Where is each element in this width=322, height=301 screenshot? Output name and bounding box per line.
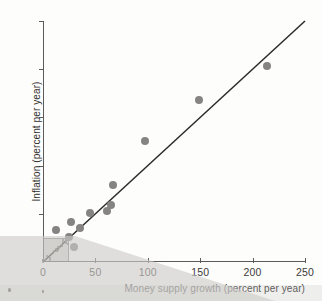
data-point [141, 137, 149, 145]
plot-area: 050100150200250 050100150200250 Inflatio… [43, 21, 305, 262]
data-point [76, 224, 84, 232]
x-tick-label: 100 [128, 266, 168, 278]
data-point [52, 226, 60, 234]
scatter-plot-figure: 050100150200250 050100150200250 Inflatio… [0, 0, 322, 301]
micro-data-point [56, 250, 58, 252]
x-tick-mark [305, 258, 306, 263]
y-axis-label: Inflation (percent per year) [31, 21, 42, 262]
micro-data-point [65, 242, 67, 244]
x-tick-label: 50 [75, 266, 115, 278]
scan-speck-artifact [42, 290, 44, 293]
micro-data-point [42, 261, 44, 263]
x-tick-label: 200 [233, 266, 273, 278]
x-tick-label: 250 [285, 266, 322, 278]
x-axis-label: Money supply growth (percent per year) [43, 283, 305, 294]
micro-data-point [58, 247, 60, 249]
x-tick-label: 150 [180, 266, 220, 278]
micro-data-point [67, 243, 69, 245]
scan-speck-artifact [8, 288, 11, 292]
micro-data-point [61, 245, 63, 247]
data-point [86, 209, 94, 217]
x-tick-label: 0 [23, 266, 63, 278]
